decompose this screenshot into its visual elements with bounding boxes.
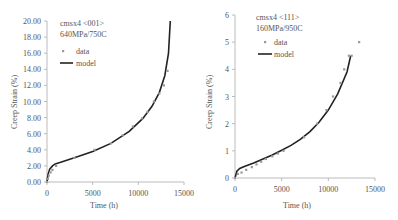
data-point [348, 55, 350, 57]
x-tick-label: 0 [45, 189, 49, 198]
y-tick-label: 8.00 [27, 114, 41, 123]
data-point [303, 136, 305, 138]
legend-data-marker [264, 41, 266, 43]
y-tick-label: 12.00 [23, 81, 41, 90]
y-tick-label: 5 [225, 38, 229, 47]
x-ticks: 050001000015000 [233, 178, 385, 194]
data-point [271, 155, 273, 157]
data-point [358, 41, 360, 43]
y-axis-label: Creep Strain (%) [10, 75, 19, 130]
data-point [46, 181, 48, 183]
data-point [277, 152, 279, 154]
y-tick-label: 0.00 [27, 178, 41, 187]
y-tick-label: 0 [225, 174, 229, 183]
data-point [245, 169, 247, 171]
data-point [122, 134, 124, 136]
data-point [265, 158, 267, 160]
chart-title: cmsx4 <111> [256, 13, 300, 22]
data-point [255, 163, 257, 165]
data-point [240, 171, 242, 173]
data-point [50, 171, 52, 173]
y-tick-label: 18.00 [23, 33, 41, 42]
x-tick-label: 10000 [128, 189, 148, 198]
model-curve [47, 21, 170, 182]
data-point [48, 174, 50, 176]
data-point [93, 149, 95, 151]
data-points [234, 41, 360, 179]
data-point [237, 173, 239, 175]
y-tick-label: 2.00 [27, 162, 41, 171]
data-point [339, 82, 341, 84]
x-axis-label: Time (h) [90, 201, 118, 210]
y-tick-label: 14.00 [23, 65, 41, 74]
legend-model-label: model [76, 59, 97, 68]
x-tick-label: 0 [233, 185, 237, 194]
chart-subtitle: 640MPa/750C [60, 30, 107, 39]
data-point [47, 178, 49, 180]
data-points [46, 70, 169, 183]
data-point [282, 150, 284, 152]
legend-data-label: data [76, 47, 90, 56]
legend-data-label: data [274, 38, 288, 47]
y-tick-label: 4 [225, 65, 229, 74]
x-tick-label: 15000 [174, 189, 194, 198]
data-point [163, 84, 165, 86]
y-tick-label: 2 [225, 120, 229, 129]
y-tick-label: 6.00 [27, 130, 41, 139]
data-point [73, 157, 75, 159]
data-point [325, 109, 327, 111]
x-tick-label: 15000 [365, 185, 385, 194]
legend-model-label: model [274, 50, 295, 59]
y-axis-label: Creep Strain (%) [205, 75, 214, 130]
data-point [153, 100, 155, 102]
y-tick-label: 4.00 [27, 146, 41, 155]
y-tick-label: 6 [225, 11, 229, 20]
y-tick-label: 3 [225, 93, 229, 102]
x-tick-label: 5000 [85, 189, 101, 198]
data-point [55, 165, 57, 167]
chart-title: cmsx4 <001> [60, 19, 104, 28]
chart-left: 0.002.004.006.008.0010.0012.0014.0016.00… [10, 17, 194, 210]
data-point [343, 68, 345, 70]
y-tick-label: 20.00 [23, 17, 41, 26]
y-tick-label: 10.00 [23, 98, 41, 107]
y-tick-label: 16.00 [23, 49, 41, 58]
x-tick-label: 10000 [318, 185, 338, 194]
x-ticks: 050001000015000 [45, 182, 194, 198]
data-point [234, 177, 236, 179]
y-tick-label: 1 [225, 147, 229, 156]
y-ticks: 0.002.004.006.008.0010.0012.0014.0016.00… [23, 17, 47, 187]
data-point [110, 142, 112, 144]
data-point [51, 169, 53, 171]
charts-canvas: 0.002.004.006.008.0010.0012.0014.0016.00… [0, 0, 398, 220]
data-point [260, 161, 262, 163]
model-curve [235, 56, 351, 178]
data-point [332, 95, 334, 97]
x-axis-label: Time (h) [283, 201, 311, 210]
data-point [146, 111, 148, 113]
data-point [351, 55, 353, 57]
data-point [158, 92, 160, 94]
data-point [132, 125, 134, 127]
chart-right: 0123456 050001000015000 cmsx4 <111> 160M… [205, 11, 385, 210]
y-ticks: 0123456 [225, 11, 235, 183]
chart-subtitle: 160MPa/950C [256, 24, 303, 33]
legend-data-marker [62, 50, 64, 52]
x-tick-label: 5000 [274, 185, 290, 194]
data-point [251, 166, 253, 168]
data-point [141, 117, 143, 119]
data-point [316, 123, 318, 125]
data-point [166, 70, 168, 72]
